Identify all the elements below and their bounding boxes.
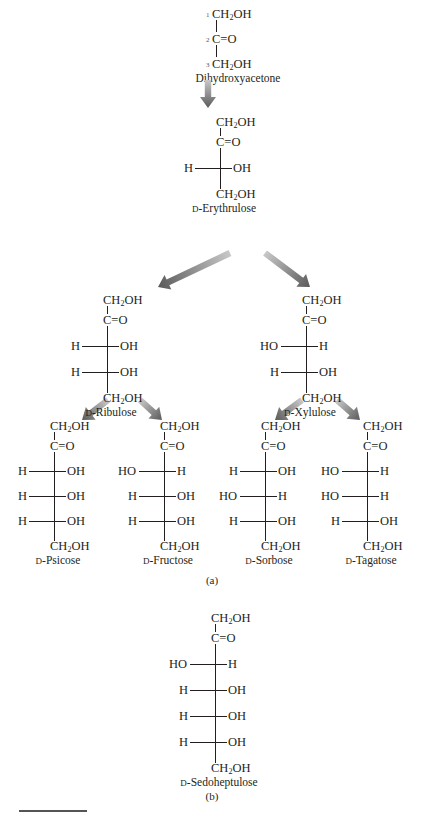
ch-text: CH <box>103 293 120 307</box>
substituent-left: H <box>18 489 27 503</box>
oh-text: OH <box>71 419 89 433</box>
bond-line <box>342 471 379 472</box>
molecule-name-xylulose: D-Xylulose <box>284 406 336 418</box>
carbonyl-group: C=O <box>50 439 74 453</box>
substituent-right: H <box>177 464 186 478</box>
molecule-name-sorbose: D-Sorbose <box>245 554 292 566</box>
name-text: -Sorbose <box>252 554 293 566</box>
oh-text: OH <box>282 419 300 433</box>
ch-text: CH <box>363 419 380 433</box>
ch2oh-top: CH2OH <box>160 419 199 437</box>
bond-line <box>240 521 277 522</box>
ch-text: CH <box>50 539 67 553</box>
ch2oh-top: CH2OH <box>302 293 341 311</box>
ch-text: CH <box>302 391 319 405</box>
oh-text: OH <box>282 539 300 553</box>
substituent-right: OH <box>228 709 246 723</box>
oh-text: OH <box>124 293 142 307</box>
ch-text: CH <box>160 539 177 553</box>
carbonyl-group: C=O <box>103 313 127 327</box>
substituent-right: OH <box>228 735 246 749</box>
bond-line <box>54 452 55 541</box>
ch-text: CH <box>160 419 177 433</box>
bond-line <box>139 521 176 522</box>
substituent-right: OH <box>380 514 398 528</box>
substituent-left: HO <box>260 339 278 353</box>
part-a-label: (a) <box>206 574 218 586</box>
substituent-left: H <box>128 514 137 528</box>
bond-line <box>107 326 108 393</box>
bond-line <box>190 690 227 691</box>
ch-text: CH <box>211 761 228 775</box>
substituent-left: HO <box>118 464 136 478</box>
carbon-number: 2 <box>206 36 210 44</box>
oh-text: OH <box>124 391 142 405</box>
bond-line <box>306 326 307 393</box>
substituent-left: H <box>229 464 238 478</box>
substituent-left: HO <box>219 489 237 503</box>
bond-line <box>265 452 266 541</box>
oh-text: OH <box>384 419 402 433</box>
bond-line <box>342 521 379 522</box>
oh-text: OH <box>181 419 199 433</box>
arrow-down-icon <box>196 68 220 120</box>
bond-line <box>195 168 232 169</box>
footnote-rule <box>19 810 87 812</box>
bond-line <box>281 346 318 347</box>
bond-line <box>367 452 368 541</box>
bond-line <box>215 644 216 763</box>
substituent-right: OH <box>177 514 195 528</box>
bond-line <box>281 372 318 373</box>
molecule-name-psicose: D-Psicose <box>36 554 81 566</box>
ch2oh-top: CH2OH <box>261 419 300 437</box>
ch2oh-c1: CH2OH <box>212 7 251 25</box>
substituent-right: OH <box>278 464 296 478</box>
substituent-right: OH <box>228 683 246 697</box>
bond-line <box>190 664 227 665</box>
molecule-name-sedoheptulose: D-Sedoheptulose <box>180 776 257 788</box>
oh-text: OH <box>71 539 89 553</box>
bond-line <box>29 521 66 522</box>
bond-line <box>29 496 66 497</box>
ch2oh-top: CH2OH <box>363 419 402 437</box>
ch2oh-top: CH2OH <box>216 115 255 133</box>
substituent-right: OH <box>233 161 251 175</box>
bond-line <box>342 496 379 497</box>
ch-text: CH <box>50 419 67 433</box>
bond-line <box>82 372 119 373</box>
ch-text: CH <box>211 611 228 625</box>
name-text: -Psicose <box>42 554 80 566</box>
ch-text: CH <box>261 539 278 553</box>
substituent-left: H <box>179 709 188 723</box>
ch-text: CH <box>216 115 233 129</box>
ch-text: CH <box>302 293 319 307</box>
substituent-right: H <box>380 489 389 503</box>
substituent-right: OH <box>67 464 85 478</box>
bond-line <box>139 496 176 497</box>
arrow-to-ribulose-icon <box>146 241 242 299</box>
bond-line <box>220 148 221 189</box>
carbonyl-group: C=O <box>216 135 240 149</box>
substituent-left: H <box>128 489 137 503</box>
bond-line <box>29 471 66 472</box>
carbonyl-group: C=O <box>261 439 285 453</box>
ch-text: CH <box>103 391 120 405</box>
molecule-name-fructose: D-Fructose <box>143 554 193 566</box>
substituent-left: H <box>184 161 193 175</box>
ch-text: CH <box>261 419 278 433</box>
substituent-left: HO <box>321 489 339 503</box>
ch2oh-top: CH2OH <box>103 293 142 311</box>
bond-line <box>240 471 277 472</box>
carbon-number: 1 <box>206 11 210 19</box>
substituent-left: H <box>18 514 27 528</box>
oh-text: OH <box>233 7 251 21</box>
substituent-left: HO <box>169 657 187 671</box>
substituent-left: H <box>71 339 80 353</box>
name-text: -Xylulose <box>291 406 336 418</box>
substituent-right: OH <box>120 365 138 379</box>
molecule-name-tagatose: D-Tagatose <box>345 554 396 566</box>
substituent-left: HO <box>321 464 339 478</box>
oh-text: OH <box>237 115 255 129</box>
part-b-label: (b) <box>206 790 219 802</box>
substituent-left: H <box>179 735 188 749</box>
